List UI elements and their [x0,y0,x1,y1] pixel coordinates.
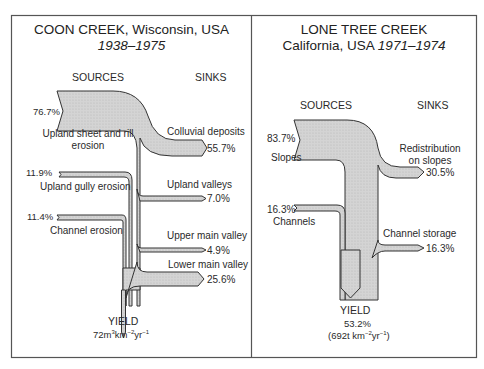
sink-label-channel-storage: Channel storage [383,228,456,239]
yield-sup: −1 [380,330,387,336]
panel2-period: 1971–1974 [378,38,446,53]
sink-value-upland-valleys: 7.0% [207,193,230,204]
yield-sup: −1 [142,329,149,335]
flow-sink-channel-storage [372,240,424,258]
source-value-gully: 11.9% [26,167,52,178]
source-label-channels: Channels [273,216,315,227]
panel2-sources-header: SOURCES [300,100,352,111]
yield-value-part: (692t km [328,330,365,341]
panel1-yield-value: 72m3km−2yr−1 [93,329,149,340]
panel2-subtitle: California, USA [283,38,375,53]
source-label-channel: Channel erosion [50,225,123,236]
sink-label-redistribution: Redistribution [385,143,475,154]
panel1-sources-header: SOURCES [72,72,124,83]
panel2-yield-value: (692t km−2yr−1) [328,330,390,341]
source-value-channel: 11.4% [27,211,53,222]
panel1-sinks-header: SINKS [195,72,227,83]
sink-label-upland-valleys: Upland valleys [167,179,232,190]
flow-sink-upland-valleys [137,189,206,201]
panel1-period: 1938–1975 [12,38,251,53]
panel2-subtitle-line: California, USA 1971–1974 [252,38,476,53]
sink-label-lower-main: Lower main valley [168,259,248,270]
source-label-gully: Upland gully erosion [40,181,131,192]
panel1-yield-label: YIELD [108,316,138,327]
panel2-sinks-header: SINKS [417,100,449,111]
panel2-yield-label: YIELD [340,305,370,316]
yield-value-part: km [115,329,128,340]
sink-label-redistribution-2: on slopes [385,155,475,166]
sink-value-lower-main: 25.6% [207,274,235,285]
source-value-channels: 16.3% [267,204,295,215]
flow-yield-lone-tree [341,250,360,298]
panel1-title: COON CREEK, Wisconsin, USA [12,22,251,37]
source-label-upland-sheet-2: erosion [38,140,138,151]
source-label-slopes: Slopes [271,152,302,163]
yield-value-part: 72m [93,329,111,340]
sink-label-colluvial: Colluvial deposits [167,126,245,137]
source-value-upland-sheet: 76.7% [33,106,60,117]
sink-label-upper-main: Upper main valley [167,230,247,241]
flow-upland-gully [59,172,132,306]
flow-sink-upper-main [137,244,206,252]
yield-value-part: yr [372,330,380,341]
sink-value-upper-main: 4.9% [207,245,230,256]
yield-sup: −2 [365,330,372,336]
source-value-slopes: 83.7% [267,133,295,144]
sink-value-channel-storage: 16.3% [426,243,454,254]
sink-value-redistribution: 30.5% [426,167,454,178]
source-label-upland-sheet: Upland sheet and rill [38,128,138,139]
yield-value-part: ) [387,330,390,341]
sink-value-colluvial: 55.7% [207,143,235,154]
panel2-title: LONE TREE CREEK [252,22,476,37]
panel2-yield-percent: 53.2% [344,318,371,329]
